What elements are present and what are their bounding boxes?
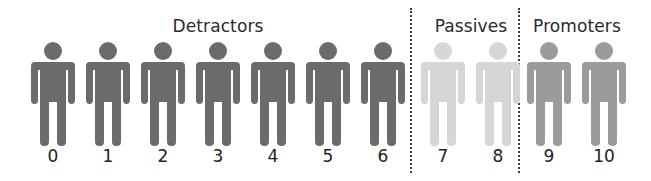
person-icon-detractor-2	[141, 42, 185, 146]
score-label: 9	[544, 146, 555, 166]
person-icon-promoter-10	[582, 42, 626, 146]
score-label: 8	[493, 146, 504, 166]
score-label: 7	[438, 146, 449, 166]
person-icon-detractor-4	[251, 42, 295, 146]
person-icon-promoter-9	[527, 42, 571, 146]
person-icon-detractor-1	[86, 42, 130, 146]
group-label-passives: Passives	[435, 16, 508, 36]
score-label: 5	[323, 146, 334, 166]
group-label-promoters: Promoters	[533, 16, 621, 36]
person-icon-detractor-6	[361, 42, 405, 146]
group-label-detractors: Detractors	[173, 16, 264, 36]
score-label: 10	[593, 146, 615, 166]
person-icon-detractor-5	[306, 42, 350, 146]
score-label: 3	[213, 146, 224, 166]
divider-detractors-passives	[410, 8, 412, 173]
person-icon-detractor-0	[31, 42, 75, 146]
score-label: 1	[103, 146, 114, 166]
score-label: 4	[268, 146, 279, 166]
person-icon-passive-8	[476, 42, 520, 146]
score-label: 0	[48, 146, 59, 166]
score-label: 2	[158, 146, 169, 166]
person-icon-passive-7	[421, 42, 465, 146]
person-icon-detractor-3	[196, 42, 240, 146]
score-label: 6	[378, 146, 389, 166]
